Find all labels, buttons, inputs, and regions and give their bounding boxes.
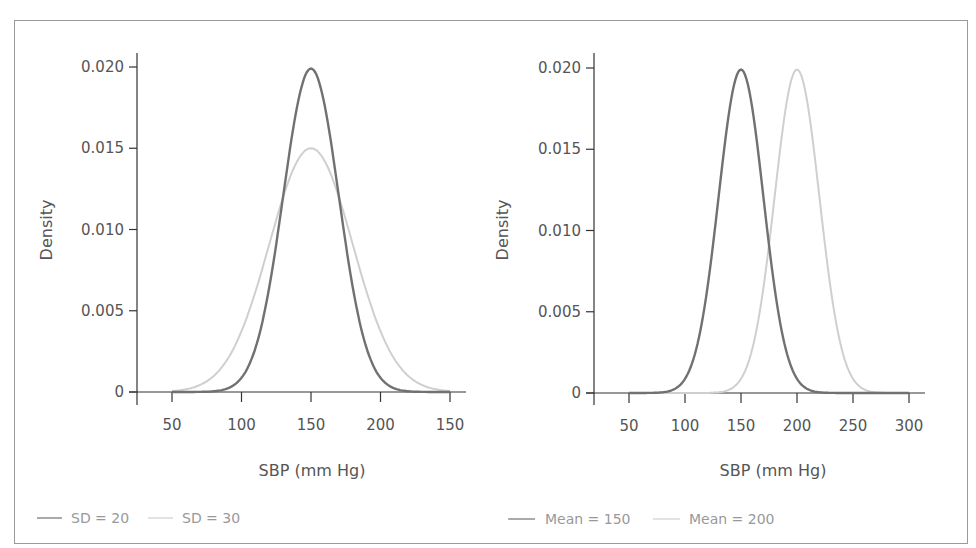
x-tick-label: 50 [162,416,181,434]
x-tick-label: 100 [671,417,700,435]
x-tick-label: 250 [839,417,868,435]
legend-label-mean-150: Mean = 150 [545,511,631,527]
x-tick-label: 300 [895,417,924,435]
series-mean-200-line [629,70,909,393]
series-mean-150-line [629,70,909,393]
y-tick-label: 0.005 [538,303,581,321]
x-tick-label: 200 [783,417,812,435]
y-tick-label: 0.020 [538,59,581,77]
left-y-ticks: 00.0050.0100.0150.020 [81,58,137,401]
left-legend: SD = 20 SD = 30 [37,510,240,526]
legend-label-sd-20: SD = 20 [71,510,129,526]
series-sd-20-line [172,69,450,392]
left-x-ticks: 50100150200150 [162,392,464,434]
y-tick-label: 0.010 [81,221,124,239]
right-y-axis-label: Density [493,200,512,261]
y-tick-label: 0.010 [538,222,581,240]
y-tick-label: 0.015 [81,139,124,157]
x-tick-label: 100 [227,416,256,434]
right-x-axis-label: SBP (mm Hg) [720,461,827,480]
legend-label-mean-200: Mean = 200 [689,511,775,527]
x-tick-label: 50 [619,417,638,435]
series-sd-30-line [172,148,450,391]
x-tick-label: 150 [436,416,465,434]
right-legend: Mean = 150 Mean = 200 [508,511,775,527]
left-x-axis-label: SBP (mm Hg) [259,461,366,480]
x-tick-label: 150 [727,417,756,435]
y-tick-label: 0.020 [81,58,124,76]
figure-canvas: Density 00.0050.0100.0150.020 5010015020… [0,0,976,548]
y-tick-label: 0 [114,383,124,401]
left-panel: Density 00.0050.0100.0150.020 5010015020… [37,53,466,526]
left-y-axis-label: Density [37,200,56,261]
x-tick-label: 150 [297,416,326,434]
x-tick-label: 200 [366,416,395,434]
right-panel: Density 00.0050.0100.0150.020 5010015020… [493,53,925,527]
y-tick-label: 0.005 [81,302,124,320]
right-x-ticks: 50100150200250300 [619,393,923,435]
right-y-ticks: 00.0050.0100.0150.020 [538,59,594,402]
y-tick-label: 0 [571,384,581,402]
legend-label-sd-30: SD = 30 [182,510,240,526]
y-tick-label: 0.015 [538,140,581,158]
